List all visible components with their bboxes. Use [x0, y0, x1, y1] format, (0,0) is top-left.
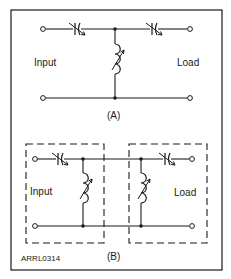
caption-b: (B): [107, 252, 120, 262]
terminal-icon: [41, 96, 46, 101]
caption-a: (A): [107, 111, 120, 121]
load-label-b: Load: [174, 188, 196, 198]
terminal-icon: [188, 96, 193, 101]
input-label-a: Input: [34, 58, 56, 68]
figure-credit: ARRL0314: [21, 255, 60, 263]
input-label-b: Input: [30, 187, 52, 197]
terminal-icon: [41, 27, 46, 32]
terminal-icon: [188, 27, 193, 32]
load-label-a: Load: [177, 58, 199, 68]
variable-inductor-icon: [80, 173, 92, 203]
variable-inductor-icon: [112, 44, 124, 74]
figure-frame: [11, 10, 222, 270]
terminal-icon: [33, 224, 38, 229]
circuit-diagram: [0, 0, 231, 279]
variable-inductor-icon: [138, 173, 150, 203]
terminal-icon: [190, 224, 195, 229]
circuit-a: [41, 23, 193, 100]
terminal-icon: [33, 157, 38, 162]
terminal-icon: [190, 157, 195, 162]
